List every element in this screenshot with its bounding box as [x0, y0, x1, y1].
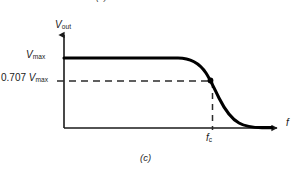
vmax-var: V	[26, 49, 33, 60]
cutoff-subscript: max	[35, 76, 48, 83]
y-axis-title-var: V	[55, 19, 62, 30]
x-tick-label-fc: fc	[206, 133, 212, 143]
x-axis-title: f	[286, 118, 289, 128]
y-tick-label-cutoff: 0.707 Vmax	[1, 73, 48, 83]
fc-subscript: c	[209, 136, 212, 143]
cutoff-point-marker	[208, 78, 214, 84]
y-axis-title: Vout	[55, 20, 71, 30]
cutoff-coefficient: 0.707	[1, 72, 29, 83]
response-curve	[64, 58, 272, 128]
vmax-subscript: max	[33, 53, 46, 60]
figure-caption-c: (c)	[140, 153, 151, 163]
figure-caption-a: (a)	[96, 0, 107, 2]
figure-low-pass-response: (a) Vout f Vmax 0.707 Vmax fc (c)	[0, 0, 302, 174]
frequency-response-plot	[0, 0, 302, 174]
y-axis-title-subscript: out	[62, 23, 71, 30]
y-tick-label-vmax: Vmax	[26, 50, 45, 60]
